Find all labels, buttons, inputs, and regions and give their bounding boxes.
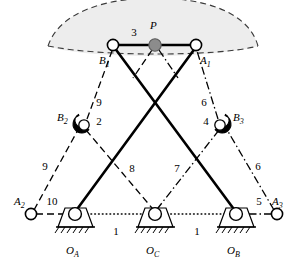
link-label-9-upper: 9: [96, 96, 102, 108]
link-number-labels: 1 1 2 3 4 5 6 6 7 8 9 9 10: [42, 26, 262, 237]
label-B2: B2: [57, 111, 68, 126]
link-label-7: 7: [174, 162, 180, 174]
grounded-pivot-OB: [216, 208, 256, 233]
revolute-joint-OC: [149, 208, 162, 221]
platform-point-P: [149, 39, 161, 51]
label-B3: B3: [233, 111, 244, 126]
mechanism-figure: B1 A1 P B2 B3 A2 A3 OA OC OB 1 1 2 3 4 5…: [0, 0, 303, 267]
link-6-A3-B3: [226, 128, 274, 210]
revolute-joint-A2: [25, 208, 36, 219]
grounded-pivot-OA: [55, 208, 95, 233]
link-8-B2-OC: [86, 130, 152, 208]
revolute-joint-OB: [230, 208, 243, 221]
revolute-joint-A1: [190, 39, 201, 50]
link-label-1-left: 1: [113, 225, 119, 237]
link-label-8: 8: [129, 162, 135, 174]
link-label-1-right: 1: [194, 225, 200, 237]
label-OA: OA: [66, 244, 79, 259]
link-label-2: 2: [96, 115, 102, 127]
label-OB: OB: [227, 244, 240, 259]
link-label-5: 5: [256, 195, 262, 207]
link-label-4: 4: [203, 115, 209, 127]
label-B1: B1: [99, 54, 110, 69]
link-2-OA-A1: [75, 47, 196, 212]
label-A1: A1: [199, 54, 211, 69]
label-OC: OC: [146, 244, 160, 259]
link-label-10: 10: [47, 195, 59, 207]
revolute-joint-B2: [79, 120, 89, 130]
revolute-joint-A3: [271, 208, 282, 219]
label-P: P: [149, 19, 157, 31]
link-label-6-lower: 6: [255, 160, 261, 172]
link-label-3: 3: [131, 26, 137, 38]
link-label-6-upper: 6: [201, 96, 207, 108]
grounded-pivot-OC: [135, 208, 175, 233]
link-label-9-lower: 9: [42, 160, 48, 172]
clamped-revolute-B2: [70, 113, 89, 136]
link-7-B3-OC: [158, 130, 219, 208]
revolute-joint-OA: [69, 208, 82, 221]
revolute-joint-B3: [215, 120, 225, 130]
revolute-joint-B1: [107, 39, 118, 50]
label-A2: A2: [13, 195, 25, 210]
kinematic-diagram-canvas: B1 A1 P B2 B3 A2 A3 OA OC OB 1 1 2 3 4 5…: [0, 0, 303, 267]
